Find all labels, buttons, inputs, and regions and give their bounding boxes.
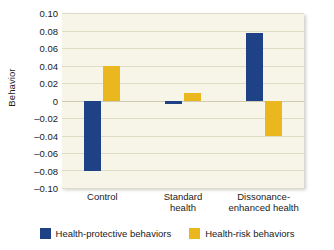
bar-risk <box>265 101 282 137</box>
y-axis-tick-label: 0.08 <box>16 25 58 36</box>
y-axis-tick-label: 0 <box>16 95 58 106</box>
legend-swatch-risk-icon <box>189 228 200 239</box>
y-axis-tick-label: –0.06 <box>16 148 58 159</box>
x-axis-category-labels: ControlStandardhealthDissonance-enhanced… <box>62 191 304 221</box>
gridline <box>62 188 304 189</box>
chart-legend: Health-protective behaviorsHealth-risk b… <box>0 228 334 239</box>
bar-chart: Behavior 0.100.080.060.040.020–0.02–0.04… <box>0 0 334 250</box>
y-axis-tick-label: –0.04 <box>16 130 58 141</box>
legend-item: Health-protective behaviors <box>40 228 172 239</box>
legend-label: Health-risk behaviors <box>205 228 294 239</box>
y-axis-title: Behavior <box>6 53 17 123</box>
bar-risk <box>184 93 201 101</box>
bar-risk <box>103 66 120 100</box>
y-axis-tick-label: 0.10 <box>16 8 58 19</box>
y-axis-tick-label: 0.06 <box>16 43 58 54</box>
legend-swatch-protective-icon <box>40 228 51 239</box>
legend-label: Health-protective behaviors <box>56 228 172 239</box>
legend-item: Health-risk behaviors <box>189 228 294 239</box>
bars-layer <box>62 13 304 188</box>
y-axis-tick-label: –0.10 <box>16 183 58 194</box>
x-axis-label-line: Control <box>87 191 118 202</box>
x-axis-label: Dissonance-enhanced health <box>223 191 304 213</box>
y-axis-tick-label: –0.02 <box>16 113 58 124</box>
x-axis-label: Control <box>62 191 143 202</box>
bar-protective <box>165 101 182 105</box>
x-axis-label-line: Standard <box>164 191 203 202</box>
y-axis-tick-label: 0.04 <box>16 60 58 71</box>
plot-area <box>62 13 304 188</box>
bar-protective <box>246 33 263 100</box>
y-axis-tick-label: 0.02 <box>16 78 58 89</box>
y-axis-tick-label: –0.08 <box>16 165 58 176</box>
x-axis-label-line: health <box>143 202 224 213</box>
bar-protective <box>84 101 101 172</box>
x-axis-label-line: enhanced health <box>223 202 304 213</box>
x-axis-label: Standardhealth <box>143 191 224 213</box>
x-axis-label-line: Dissonance- <box>237 191 290 202</box>
y-axis-tick-labels: 0.100.080.060.040.020–0.02–0.04–0.06–0.0… <box>16 7 58 193</box>
